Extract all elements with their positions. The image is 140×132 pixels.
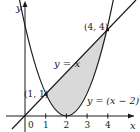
area-between-curves-diagram: y x 0 1 2 3 4 (1, 1) (4, 4) y = x y = (x… <box>0 0 140 132</box>
x-tick-label-4: 4 <box>105 120 111 130</box>
x-tick-label-1: 1 <box>43 120 49 130</box>
parabola-exponent: 2 <box>139 94 140 102</box>
x-tick-label-0: 0 <box>28 120 34 130</box>
point-label-4-4: (4, 4) <box>84 22 108 32</box>
x-axis-label: x <box>130 120 136 131</box>
line-label: y = x <box>53 58 80 69</box>
y-axis-label: y <box>15 2 22 13</box>
x-axis-arrow-icon <box>128 114 134 119</box>
parabola-label: y = (x − 2)2 <box>86 94 140 106</box>
x-tick-label-3: 3 <box>85 120 91 130</box>
point-label-1-1: (1, 1) <box>24 89 48 99</box>
y-axis-arrow-icon <box>23 1 28 7</box>
x-tick-label-2: 2 <box>64 120 70 130</box>
